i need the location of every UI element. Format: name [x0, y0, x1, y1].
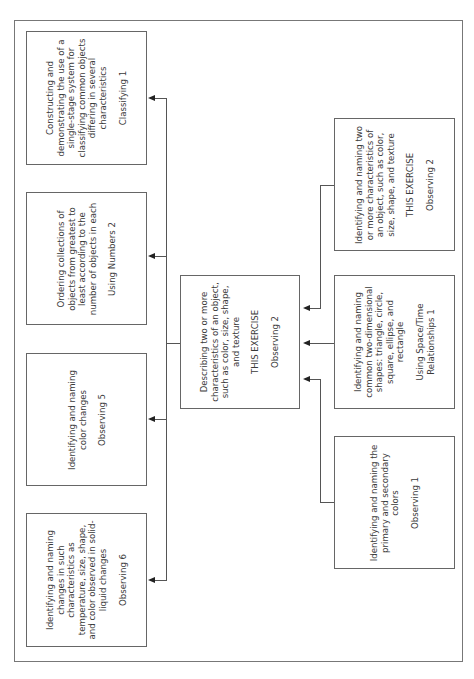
- box-description: Identifying and naming changes in such c…: [45, 520, 109, 640]
- arrow-icon: [303, 340, 310, 346]
- this-exercise-label: THIS EXERCISE: [251, 282, 262, 402]
- box-description: Identifying and naming color changes: [66, 360, 87, 480]
- box-description: Ordering collections of objects from gre…: [56, 199, 98, 319]
- box-description: Identifying and naming common two-dimens…: [353, 282, 406, 402]
- connector-observing-1-v: [320, 379, 321, 503]
- arrow-icon: [303, 376, 310, 382]
- arrow-icon: [303, 305, 310, 311]
- arrow-icon: [148, 577, 155, 583]
- connector-observing-1-h: [320, 502, 334, 503]
- box-observing-1: Identifying and naming the primary and s…: [334, 436, 455, 569]
- connector-center-to-trunk: [166, 343, 180, 344]
- box-space-time-1: Identifying and naming common two-dimens…: [334, 275, 455, 409]
- box-code: Observing 2: [270, 282, 281, 402]
- box-description: Constructing and demonstrating the use o…: [45, 38, 109, 158]
- box-code: Observing 1: [410, 443, 421, 563]
- box-description: Describing two or more characteristics o…: [199, 282, 241, 402]
- arrow-icon: [148, 416, 155, 422]
- box-description: Identifying and naming the primary and s…: [369, 443, 401, 563]
- connector-observing-2-prereq-h: [320, 185, 334, 186]
- box-observing-6: Identifying and naming changes in such c…: [26, 513, 147, 647]
- box-observing-5: Identifying and naming color changes Obs…: [26, 353, 147, 486]
- arrow-icon: [148, 253, 155, 259]
- box-code: Observing 5: [96, 360, 107, 480]
- box-classifying-1: Constructing and demonstrating the use o…: [26, 31, 147, 165]
- box-observing-2-prereq: Identifying and naming two or more chara…: [334, 118, 455, 251]
- connector-space-time-1: [308, 343, 334, 344]
- box-code: Observing 2: [425, 125, 436, 245]
- box-description: Identifying and naming two or more chara…: [354, 125, 396, 245]
- connector-trunk-left: [166, 98, 167, 581]
- box-code: Using Space/Time Relationships 1: [415, 282, 436, 402]
- box-center-this-exercise: Describing two or more characteristics o…: [180, 275, 300, 409]
- this-exercise-label: THIS EXERCISE: [405, 125, 416, 245]
- arrow-icon: [148, 95, 155, 101]
- box-using-numbers-2: Ordering collections of objects from gre…: [26, 192, 147, 325]
- connector-observing-2-prereq-v: [320, 185, 321, 309]
- box-code: Using Numbers 2: [107, 199, 118, 319]
- box-code: Classifying 1: [117, 38, 128, 158]
- box-code: Observing 6: [117, 520, 128, 640]
